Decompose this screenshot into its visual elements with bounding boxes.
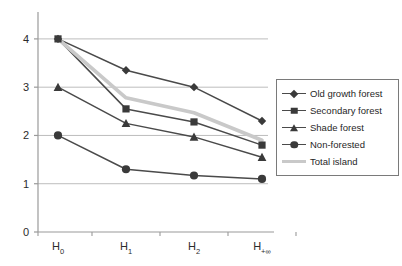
svg-text:H+∞: H+∞: [253, 240, 271, 256]
x-axis-tick-labels: H0H1H2H+∞: [52, 240, 271, 256]
legend-item-total-island: Total island: [281, 153, 394, 170]
legend-item-old-growth-forest: Old growth forest: [281, 85, 394, 102]
legend-marker-line-icon: [281, 155, 307, 169]
svg-text:1: 1: [23, 178, 29, 190]
legend-label: Non-forested: [310, 140, 365, 150]
legend-label: Old growth forest: [310, 89, 382, 99]
axes: [38, 12, 274, 232]
svg-text:H0: H0: [52, 240, 64, 256]
gridlines: [38, 39, 268, 184]
svg-text:0: 0: [23, 226, 29, 238]
y-axis-tick-labels: 01234: [23, 33, 29, 238]
chart-legend: Old growth forest Secondary forest Shade…: [276, 79, 399, 176]
svg-text:2: 2: [23, 129, 29, 141]
legend-label: Secondary forest: [310, 106, 382, 116]
legend-marker-circle-icon: [281, 138, 307, 152]
legend-label: Total island: [310, 157, 358, 167]
series-lines: [58, 39, 262, 179]
legend-marker-square-icon: [281, 104, 307, 118]
svg-text:H1: H1: [120, 240, 132, 256]
legend-item-shade-forest: Shade forest: [281, 119, 394, 136]
chart-figure: 01234 H0H1H2H+∞ Old growth forest Second…: [0, 0, 402, 266]
svg-text:4: 4: [23, 33, 29, 45]
legend-item-secondary-forest: Secondary forest: [281, 102, 394, 119]
legend-label: Shade forest: [310, 123, 364, 133]
legend-marker-diamond-icon: [281, 87, 307, 101]
svg-text:3: 3: [23, 81, 29, 93]
legend-item-non-forested: Non-forested: [281, 136, 394, 153]
series-markers: [54, 35, 267, 183]
legend-marker-triangle-icon: [281, 121, 307, 135]
svg-text:H2: H2: [188, 240, 200, 256]
